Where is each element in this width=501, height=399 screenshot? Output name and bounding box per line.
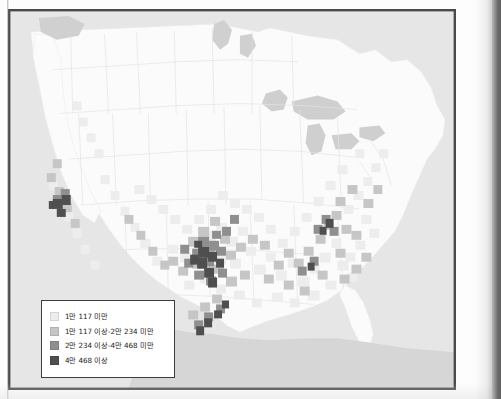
legend-swatch-class-3 [50,341,59,350]
page-fold-line [7,0,9,399]
legend-item: 1만 117 미만 [50,310,174,324]
legend-swatch-class-4 [50,356,59,365]
legend-label-class-4: 4만 468 이상 [65,356,108,365]
legend-label-class-2: 1만 117 이상-2만 234 미만 [65,327,153,336]
legend-label-class-1: 1만 117 미만 [65,312,108,321]
page-edge-dark-strip [492,0,501,399]
legend-item: 4만 468 이상 [50,354,174,368]
legend-item: 1만 117 이상-2만 234 미만 [50,325,174,339]
scanned-page: 1만 117 미만 1만 117 이상-2만 234 미만 2만 234 이상-… [0,0,501,399]
legend-swatch-class-2 [50,327,59,336]
legend-item: 2만 234 이상-4만 468 미만 [50,339,174,353]
legend-label-class-3: 2만 234 이상-4만 468 미만 [65,341,153,350]
legend-swatch-class-1 [50,312,59,321]
map-legend: 1만 117 미만 1만 117 이상-2만 234 미만 2만 234 이상-… [41,300,175,378]
